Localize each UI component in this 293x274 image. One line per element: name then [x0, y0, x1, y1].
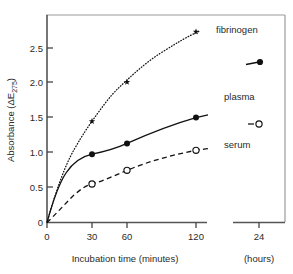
series-serum	[47, 147, 208, 222]
plasma-24h-point	[256, 121, 262, 127]
y-tick-label: 2.0	[30, 77, 43, 88]
y-axis-label-main: Absorbance (ΔE	[5, 93, 16, 162]
chart-figure: 2.5 2.0 1.5 1.0 0.5 0 0 30 60 120 24 (ho…	[0, 0, 293, 274]
fibrinogen-markers	[89, 29, 199, 125]
series-fibrinogen	[47, 29, 200, 223]
y-axis-label-subscript: 275	[11, 81, 18, 93]
x-axis-label: Incubation time (minutes)	[72, 253, 179, 264]
figure-frame	[46, 15, 285, 222]
y-axis-label: Absorbance (ΔE275)	[5, 78, 18, 162]
legend: fibrinogen plasma serum	[216, 24, 258, 150]
x-axis-ticks	[47, 223, 196, 229]
x-tick-label: 120	[188, 231, 204, 242]
y-tick-label: 0	[38, 217, 43, 228]
y-tick-label: 2.5	[30, 43, 43, 54]
y-axis-label-tail: )	[5, 78, 16, 81]
absorbance-vs-incubation-time-chart: 2.5 2.0 1.5 1.0 0.5 0 0 30 60 120 24 (ho…	[0, 0, 293, 274]
y-tick-label: 1.5	[30, 112, 43, 123]
svg-text:Absorbance (ΔE275): Absorbance (ΔE275)	[5, 78, 18, 162]
x-tick-label: 30	[87, 231, 98, 242]
fibrinogen-24h-point	[257, 59, 263, 65]
y-tick-label: 0.5	[30, 182, 43, 193]
fibrinogen-line	[47, 31, 200, 223]
x-tick-label: 0	[44, 231, 49, 242]
x-tick-label: 60	[122, 231, 133, 242]
legend-label-fibrinogen: fibrinogen	[216, 24, 258, 35]
x-tick-label-24h: 24	[254, 231, 265, 242]
x-tick-labels: 0 30 60 120	[44, 231, 204, 242]
legend-label-serum: serum	[224, 139, 250, 150]
legend-label-plasma: plasma	[224, 91, 255, 102]
y-tick-labels: 2.5 2.0 1.5 1.0 0.5 0	[30, 43, 43, 229]
right-panel-axis	[233, 223, 285, 229]
y-tick-label: 1.0	[30, 147, 43, 158]
x-axis-label-hours: (hours)	[244, 253, 274, 264]
main-panel-axes	[47, 15, 207, 223]
serum-line	[47, 149, 208, 223]
y-axis-ticks	[47, 48, 53, 187]
